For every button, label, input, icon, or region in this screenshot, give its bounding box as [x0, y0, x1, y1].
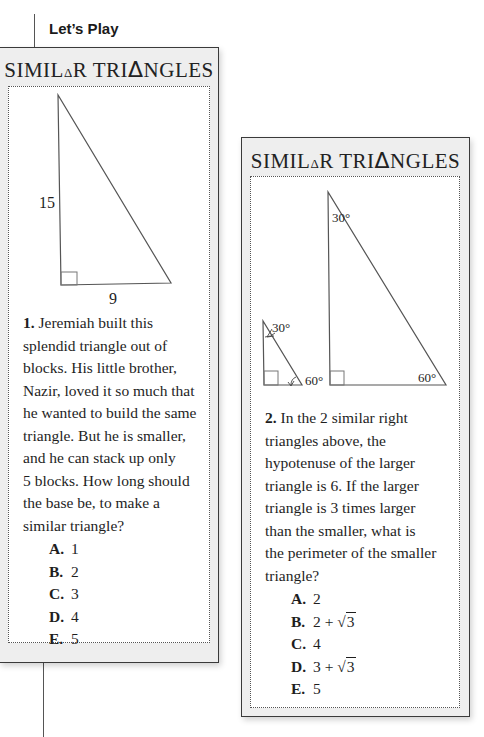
choice-d[interactable]: D.3 + √3 [291, 656, 356, 679]
section-label: Let’s Play [49, 20, 118, 37]
problem-card-1: SIMILΔR TRIΔNGLES 15 9 1. Jeremiah built… [0, 47, 219, 663]
choice-d[interactable]: D.4 [49, 606, 79, 629]
card-title: SIMILΔR TRIΔNGLES [242, 148, 469, 174]
label-vertical-leg: 15 [39, 194, 55, 212]
margin-rule-top [34, 14, 35, 48]
label-base: 9 [109, 290, 117, 308]
choice-b[interactable]: B.2 + √3 [291, 611, 356, 634]
choice-a[interactable]: A.2 [291, 588, 356, 611]
choice-e[interactable]: E.5 [49, 628, 79, 651]
card-title: SIMILΔR TRIΔNGLES [0, 57, 218, 83]
choice-b[interactable]: B.2 [49, 561, 79, 584]
question-number: 2. [265, 409, 277, 426]
question-number: 1. [23, 314, 35, 331]
margin-rule-bottom [43, 662, 44, 737]
answer-choices-2: A.2 B.2 + √3 C.4 D.3 + √3 E.5 [291, 588, 356, 701]
card-content-area: 15 9 1. Jeremiah built this splendid tri… [8, 86, 210, 643]
answer-choices-1: A.1 B.2 C.3 D.4 E.5 [49, 538, 79, 651]
choice-e[interactable]: E.5 [291, 678, 356, 701]
question-2-text: 2. In the 2 similar right triangles abov… [265, 407, 461, 587]
label-small-top-angle: 30° [272, 320, 290, 336]
question-1-text: 1. Jeremiah built this splendid triangle… [23, 312, 207, 537]
choice-c[interactable]: C.3 [49, 583, 79, 606]
problem-card-2: SIMILΔR TRIΔNGLES 30° 60° 30° 60° 2. In … [241, 137, 470, 717]
square-root: √3 [337, 656, 355, 679]
choice-a[interactable]: A.1 [49, 538, 79, 561]
square-root: √3 [337, 611, 355, 634]
label-large-bottom-angle: 60° [418, 370, 436, 386]
choice-c[interactable]: C.4 [291, 633, 356, 656]
card-content-area: 30° 60° 30° 60° 2. In the 2 similar righ… [250, 176, 460, 708]
label-large-top-angle: 30° [332, 210, 350, 226]
label-small-bottom-angle: 60° [305, 373, 323, 389]
similar-triangles-figure [251, 177, 459, 397]
